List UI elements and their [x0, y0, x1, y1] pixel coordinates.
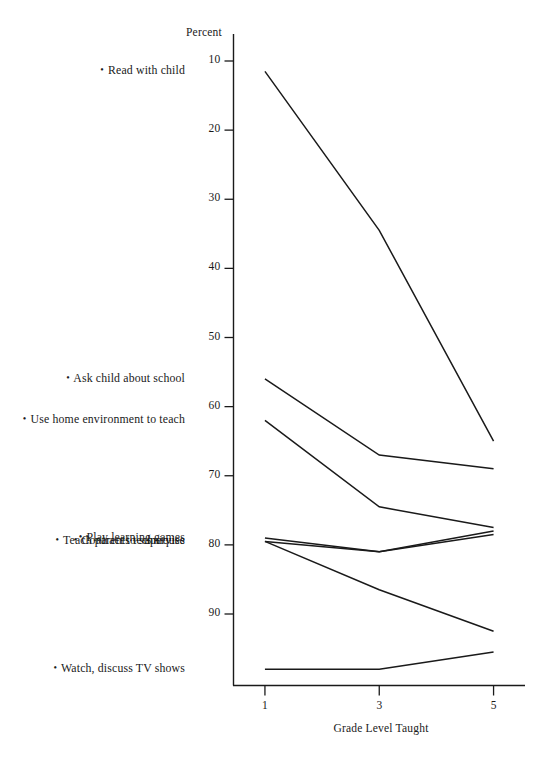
series-line: [265, 71, 494, 441]
chart-series-lines: [265, 71, 494, 669]
y-axis-tick-label: 90: [187, 606, 221, 618]
y-axis-tick-label: 10: [187, 53, 221, 65]
figure-container: Percent Grade Level Taught 9080706050403…: [0, 0, 559, 761]
series-label: • Read with child: [100, 63, 185, 78]
series-line: [265, 420, 494, 527]
y-axis-tick-label: 40: [187, 260, 221, 272]
x-axis-tick-label: 1: [253, 699, 277, 711]
x-axis-tick-label: 3: [367, 699, 391, 711]
series-label-text: Ask child about school: [71, 371, 185, 385]
series-label-text: Contract to supervise: [79, 533, 186, 547]
y-axis-tick-label: 70: [187, 468, 221, 480]
x-axis-tick-label: 5: [482, 699, 506, 711]
series-label-text: Read with child: [105, 63, 185, 77]
y-axis-tick-label: 20: [187, 122, 221, 134]
series-label: • Ask child about school: [66, 371, 185, 386]
y-axis-ticks: [225, 61, 234, 614]
x-axis-ticks: [265, 686, 494, 696]
y-axis-title: Percent: [186, 26, 222, 38]
series-line: [265, 652, 494, 669]
series-line: [265, 379, 494, 469]
series-line: [265, 541, 494, 631]
chart-axes: [225, 34, 526, 696]
y-axis-tick-label: 60: [187, 399, 221, 411]
series-label-text: Use home environment to teach: [28, 412, 186, 426]
y-axis-tick-label: 80: [187, 537, 221, 549]
y-axis-tick-label: 50: [187, 330, 221, 342]
series-label-text: Watch, discuss TV shows: [58, 661, 185, 675]
series-label: • Contract to supervise: [74, 533, 185, 548]
x-axis-title: Grade Level Taught: [261, 722, 501, 734]
series-label: • Use home environment to teach: [23, 412, 185, 427]
series-label: • Watch, discuss TV shows: [53, 661, 185, 676]
y-axis-tick-label: 30: [187, 191, 221, 203]
